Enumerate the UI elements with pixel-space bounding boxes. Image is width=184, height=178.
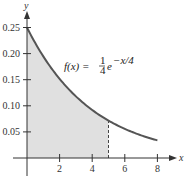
x-tick-label: 2	[57, 163, 62, 174]
y-axis-label: y	[23, 0, 29, 11]
y-tick-label: 0.25	[3, 22, 21, 33]
x-axis-arrow-icon	[169, 155, 177, 161]
formula-base: e	[107, 60, 112, 72]
x-tick-label: 8	[155, 163, 160, 174]
shaded-area	[27, 28, 109, 159]
y-tick-label: 0.15	[3, 74, 21, 85]
chart: yx0.050.100.150.200.252468f(x) =14e−x/4	[0, 0, 184, 178]
y-tick-label: 0.10	[3, 100, 21, 111]
y-axis-arrow-icon	[24, 11, 30, 19]
formula-lhs: f(x) =	[64, 60, 89, 73]
x-axis-label: x	[178, 152, 184, 163]
x-tick-label: 4	[90, 163, 95, 174]
formula-exponent: −x/4	[113, 54, 134, 66]
y-tick-label: 0.20	[3, 48, 21, 59]
x-tick-label: 6	[122, 163, 127, 174]
formula-denominator: 4	[100, 64, 106, 76]
y-tick-label: 0.05	[3, 126, 21, 137]
